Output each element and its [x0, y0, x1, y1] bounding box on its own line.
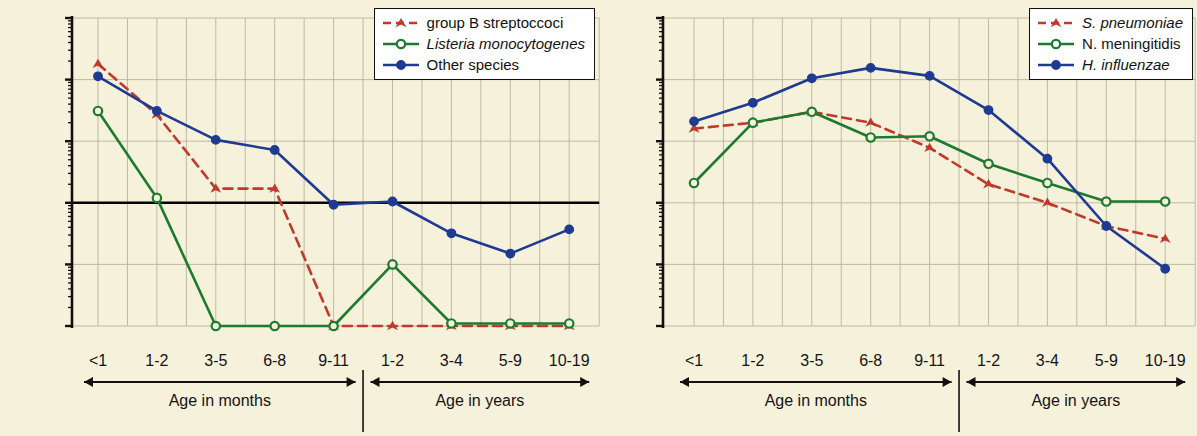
legend-label: N. meningitidis	[1082, 36, 1180, 51]
x-tick-label: 3-4	[440, 352, 463, 370]
legend-label: Listeria monocytogenes	[427, 36, 585, 51]
legend-label: S. pneumoniae	[1082, 15, 1183, 30]
legend-entry: H. influenzae	[1037, 55, 1183, 74]
x-tick-label: 5-9	[1095, 352, 1118, 370]
legend-marker-icon	[1037, 16, 1075, 30]
group-label-years: Age in years	[1031, 392, 1120, 410]
legend-entry: group B streptoccoci	[382, 13, 585, 32]
x-tick-label: 5-9	[499, 352, 522, 370]
x-tick-label: 1-2	[741, 352, 764, 370]
legend-label: Other species	[427, 57, 520, 72]
legend-entry: Other species	[382, 55, 585, 74]
x-tick-label: 6-8	[263, 352, 286, 370]
x-tick-label: 1-2	[977, 352, 1000, 370]
x-tick-label: 1-2	[381, 352, 404, 370]
group-label-months: Age in months	[169, 392, 271, 410]
x-tick-label: 3-5	[204, 352, 227, 370]
x-tick-label: 9-11	[914, 352, 945, 370]
legend-label: group B streptoccoci	[427, 15, 564, 30]
legend-left: group B streptoccociListeria monocytogen…	[374, 8, 595, 80]
legend-marker-icon	[1037, 58, 1075, 72]
legend-marker-icon	[382, 37, 420, 51]
x-tick-label: 1-2	[145, 352, 168, 370]
x-tick-label: 3-5	[800, 352, 823, 370]
x-tick-label: 6-8	[859, 352, 882, 370]
legend-entry: Listeria monocytogenes	[382, 34, 585, 53]
x-tick-label: 3-4	[1036, 352, 1059, 370]
chart-panel-left: Incidence/100,000 10001001010.10.01 <11-…	[0, 0, 601, 422]
legend-entry: N. meningitidis	[1037, 34, 1183, 53]
x-tick-label: <1	[685, 352, 703, 370]
chart-panel-right: 10001001010.10.01 <11-23-56-89-111-23-45…	[601, 0, 1197, 422]
legend-right: S. pneumoniaeN. meningitidisH. influenza…	[1029, 8, 1193, 80]
legend-marker-icon	[382, 58, 420, 72]
legend-marker-icon	[382, 16, 420, 30]
legend-entry: S. pneumoniae	[1037, 13, 1183, 32]
x-tick-label: 10-19	[1145, 352, 1186, 370]
group-label-years: Age in years	[435, 392, 524, 410]
legend-label: H. influenzae	[1082, 57, 1170, 72]
group-label-months: Age in months	[765, 392, 867, 410]
legend-marker-icon	[1037, 37, 1075, 51]
x-tick-label: <1	[89, 352, 107, 370]
x-tick-label: 9-11	[318, 352, 349, 370]
x-tick-label: 10-19	[549, 352, 590, 370]
